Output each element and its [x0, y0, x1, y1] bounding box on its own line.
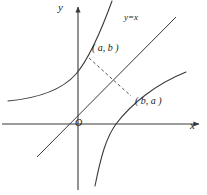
figure-vector-graphics — [0, 0, 207, 195]
symmetry-connector-dashed-line — [89, 58, 131, 96]
origin-label: O — [75, 118, 82, 128]
logarithmic-curve — [95, 72, 186, 186]
identity-line — [37, 17, 176, 157]
x-axis-label: x — [190, 120, 195, 131]
identity-line-label: y=x — [124, 13, 138, 22]
math-figure-canvas: y x O y=x ( a, b ) ( b, a ) — [0, 0, 207, 195]
y-axis-label: y — [58, 2, 63, 13]
point-ba-label: ( b, a ) — [135, 96, 162, 106]
point-ab-label: ( a, b ) — [92, 43, 119, 53]
